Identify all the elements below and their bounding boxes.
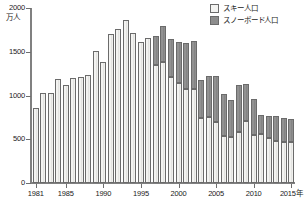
- bar-group: [70, 78, 76, 183]
- bar-group: [160, 26, 166, 184]
- bar-segment-ski: [153, 65, 159, 183]
- bar-segment-ski: [130, 33, 136, 184]
- bar-segment-snowboard: [198, 80, 204, 119]
- x-tick-label-1985: 1985: [58, 189, 74, 198]
- bar-segment-ski: [160, 62, 166, 183]
- bar-segment-snowboard: [281, 118, 287, 142]
- bar-segment-ski: [100, 62, 106, 183]
- bar-segment-snowboard: [273, 116, 279, 141]
- y-tick-label-2000: 2000: [1, 4, 25, 12]
- x-tick-label-2015: 2015年: [280, 189, 303, 198]
- x-tick-label-1990: 1990: [95, 189, 111, 198]
- y-tick-label-wrap: 2000: [0, 4, 25, 12]
- bar-group: [288, 119, 294, 183]
- bar-segment-ski: [63, 85, 69, 183]
- bar-segment-snowboard: [168, 39, 174, 78]
- bar-group: [40, 93, 46, 183]
- bar-group: [176, 42, 182, 183]
- chart-container: 万人 0500100015002000 19811985199019952000…: [0, 0, 307, 201]
- y-tick-1500: [26, 52, 31, 53]
- y-tick-label-wrap: 1000: [0, 92, 25, 100]
- bar-group: [206, 76, 212, 183]
- x-tick-2005: [216, 184, 217, 188]
- x-tick-2010: [254, 184, 255, 188]
- plot-area: [32, 8, 295, 183]
- bar-segment-ski: [213, 122, 219, 183]
- bar-segment-ski: [138, 42, 144, 183]
- bar-group: [108, 34, 114, 183]
- bar-segment-ski: [221, 136, 227, 183]
- y-tick-label-500: 500: [1, 135, 25, 143]
- bar-group: [138, 42, 144, 183]
- bar-group: [243, 84, 249, 183]
- x-tick-label-2010: 2010: [246, 189, 262, 198]
- bar-segment-ski: [258, 134, 264, 183]
- bar-group: [123, 20, 129, 183]
- bar-segment-ski: [281, 142, 287, 183]
- bar-group: [228, 100, 234, 183]
- bar-segment-ski: [55, 79, 61, 183]
- bar-segment-ski: [40, 93, 46, 183]
- bar-segment-ski: [145, 38, 151, 183]
- bar-group: [93, 51, 99, 183]
- bar-segment-ski: [70, 78, 76, 183]
- x-tick-1995: [141, 184, 142, 188]
- x-tick-2000: [179, 184, 180, 188]
- bar-group: [168, 39, 174, 183]
- legend-label-ski: スキー人口: [223, 4, 258, 13]
- bar-group: [266, 116, 272, 183]
- bar-segment-snowboard: [213, 76, 219, 122]
- bar-segment-ski: [48, 93, 54, 183]
- bar-group: [183, 43, 189, 183]
- bar-segment-ski: [206, 117, 212, 183]
- y-tick-label-0: 0: [1, 179, 25, 187]
- x-tick-label-2005: 2005: [208, 189, 224, 198]
- bar-segment-snowboard: [266, 116, 272, 138]
- bar-segment-ski: [228, 137, 234, 183]
- x-tick-2015: [291, 184, 292, 188]
- x-tick-1985: [66, 184, 67, 188]
- y-tick-label-wrap: 1500: [0, 48, 25, 56]
- x-tick-label-2000: 2000: [171, 189, 187, 198]
- bar-segment-ski: [123, 20, 129, 183]
- chart-legend: スキー人口 スノーボード人口: [210, 3, 304, 27]
- bar-group: [281, 118, 287, 183]
- bar-group: [273, 116, 279, 183]
- legend-swatch-snowboard-icon: [210, 16, 219, 25]
- bar-segment-ski: [183, 89, 189, 184]
- y-tick-label-wrap: 0: [0, 179, 25, 187]
- bar-segment-snowboard: [153, 36, 159, 65]
- bar-segment-snowboard: [176, 42, 182, 83]
- legend-swatch-ski-icon: [210, 4, 219, 13]
- bar-segment-snowboard: [228, 100, 234, 137]
- y-tick-1000: [26, 96, 31, 97]
- bar-segment-snowboard: [243, 84, 249, 121]
- bar-group: [251, 99, 257, 183]
- y-axis-unit-label: 万人: [6, 14, 20, 22]
- bar-group: [198, 80, 204, 183]
- bar-segment-snowboard: [258, 115, 264, 134]
- bar-group: [221, 94, 227, 183]
- bar-group: [130, 33, 136, 184]
- bar-segment-ski: [251, 135, 257, 183]
- bar-group: [213, 76, 219, 183]
- bar-segment-snowboard: [288, 119, 294, 142]
- bar-segment-ski: [115, 29, 121, 183]
- bar-segment-ski: [236, 132, 242, 183]
- bar-segment-snowboard: [251, 99, 257, 135]
- bar-group: [258, 115, 264, 183]
- bar-segment-snowboard: [183, 43, 189, 89]
- bar-group: [55, 79, 61, 183]
- y-tick-label-1000: 1000: [1, 92, 25, 100]
- bar-group: [145, 38, 151, 183]
- bar-segment-ski: [191, 89, 197, 183]
- bar-segment-ski: [243, 121, 249, 183]
- bar-segment-ski: [273, 141, 279, 183]
- legend-label-snowboard: スノーボード人口: [223, 16, 278, 25]
- bar-group: [191, 41, 197, 183]
- bar-segment-snowboard: [206, 76, 212, 117]
- x-tick-1990: [103, 184, 104, 188]
- x-tick-label-1995: 1995: [133, 189, 149, 198]
- x-tick-label-1981: 1981: [28, 189, 44, 198]
- y-tick-label-1500: 1500: [1, 48, 25, 56]
